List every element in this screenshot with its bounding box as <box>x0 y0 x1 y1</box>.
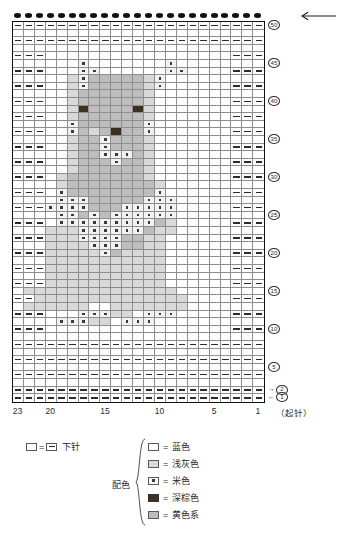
chart-cell <box>221 242 232 250</box>
chart-cell <box>133 219 144 227</box>
chart-cell <box>79 159 90 167</box>
chart-cell <box>210 235 221 243</box>
chart-cell <box>210 90 221 98</box>
chart-cell <box>89 242 100 250</box>
chart-row <box>13 379 264 387</box>
chart-cell <box>24 242 35 250</box>
bind-off-dot-icon <box>121 11 132 20</box>
chart-cell <box>144 235 155 243</box>
chart-cell <box>79 30 90 38</box>
chart-cell <box>79 280 90 288</box>
chart-cell <box>35 45 46 53</box>
chart-cell <box>24 166 35 174</box>
chart-cell <box>188 356 199 364</box>
chart-cell <box>13 333 24 341</box>
chart-cell <box>89 326 100 334</box>
chart-cell <box>122 303 133 311</box>
chart-cell <box>24 128 35 136</box>
chart-cell <box>79 387 90 395</box>
chart-row <box>13 106 264 114</box>
chart-cell <box>13 371 24 379</box>
chart-cell <box>100 144 111 152</box>
chart-cell <box>231 121 242 129</box>
chart-cell <box>46 75 57 83</box>
chart-cell <box>221 45 232 53</box>
chart-cell <box>24 45 35 53</box>
chart-cell <box>111 174 122 182</box>
chart-row <box>13 235 264 243</box>
chart-cell <box>221 295 232 303</box>
chart-cell <box>57 379 68 387</box>
chart-cell <box>79 144 90 152</box>
column-number-20: 20 <box>46 406 55 416</box>
chart-cell <box>177 295 188 303</box>
chart-cell <box>133 379 144 387</box>
legend-color-label: 蓝色 <box>172 440 190 453</box>
chart-cell <box>210 371 221 379</box>
chart-cell <box>133 235 144 243</box>
chart-cell <box>242 371 253 379</box>
chart-cell <box>68 364 79 372</box>
chart-cell <box>177 113 188 121</box>
chart-cell <box>24 204 35 212</box>
chart-cell <box>166 235 177 243</box>
chart-cell <box>133 37 144 45</box>
chart-cell <box>177 189 188 197</box>
chart-cell <box>111 288 122 296</box>
chart-row <box>13 227 264 235</box>
chart-cell <box>188 280 199 288</box>
chart-cell <box>199 90 210 98</box>
chart-cell <box>242 75 253 83</box>
chart-cell <box>155 174 166 182</box>
empty-square-icon <box>26 443 37 451</box>
chart-cell <box>122 75 133 83</box>
chart-cell <box>199 197 210 205</box>
chart-cell <box>133 197 144 205</box>
chart-cell <box>13 136 24 144</box>
chart-cell <box>79 75 90 83</box>
chart-cell <box>89 30 100 38</box>
row-number-45: 45 <box>268 58 280 68</box>
chart-cell <box>242 364 253 372</box>
chart-cell <box>111 136 122 144</box>
chart-cell <box>242 242 253 250</box>
chart-cell <box>79 349 90 357</box>
chart-cell <box>155 235 166 243</box>
chart-cell <box>79 273 90 281</box>
chart-cell <box>13 356 24 364</box>
chart-cell <box>122 90 133 98</box>
chart-cell <box>155 219 166 227</box>
chart-cell <box>231 90 242 98</box>
chart-cell <box>221 379 232 387</box>
chart-cell <box>231 106 242 114</box>
column-number-1: 1 <box>256 406 261 416</box>
chart-cell <box>13 90 24 98</box>
chart-cell <box>100 45 111 53</box>
chart-cell <box>199 37 210 45</box>
chart-cell <box>188 45 199 53</box>
chart-cell <box>253 113 264 121</box>
chart-cell <box>57 364 68 372</box>
chart-cell <box>144 136 155 144</box>
chart-cell <box>166 265 177 273</box>
chart-cell <box>79 257 90 265</box>
bind-off-marker-row <box>12 11 263 20</box>
chart-cell <box>253 159 264 167</box>
chart-cell <box>221 151 232 159</box>
chart-cell <box>46 174 57 182</box>
chart-cell <box>89 349 100 357</box>
chart-cell <box>79 333 90 341</box>
chart-cell <box>133 280 144 288</box>
row-number-25: 25 <box>268 210 280 220</box>
chart-cell <box>46 212 57 220</box>
chart-cell <box>166 204 177 212</box>
chart-cell <box>79 136 90 144</box>
chart-cell <box>242 356 253 364</box>
chart-cell <box>188 90 199 98</box>
chart-cell <box>231 364 242 372</box>
chart-cell <box>155 387 166 395</box>
chart-cell <box>111 219 122 227</box>
chart-cell <box>46 341 57 349</box>
chart-cell <box>242 68 253 76</box>
chart-cell <box>111 121 122 129</box>
